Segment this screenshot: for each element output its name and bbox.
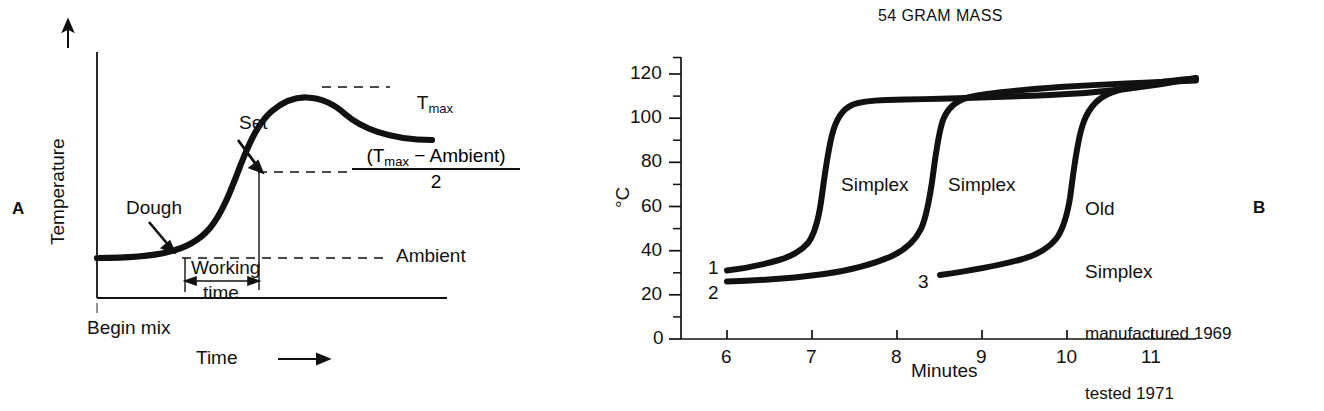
panel-b-y-minor-ticks: [673, 58, 681, 317]
panel-a-ambient-label: Ambient: [396, 246, 466, 266]
panel-a-set-label: Set: [239, 113, 268, 133]
panel-a-formula-open-paren: (T: [366, 145, 384, 166]
panel-a-working-time-line2: time: [203, 283, 239, 303]
panel-a-formula-subscript: max: [384, 154, 409, 169]
panel-a-dough-arrow: [149, 222, 174, 252]
panel-b-ytick-40: 40: [641, 240, 662, 260]
panel-b-xtick-7: 7: [806, 347, 817, 367]
panel-b-simplex-label-2: Simplex: [948, 175, 1016, 195]
panel-b-letter: B: [1253, 199, 1265, 217]
panel-a-formula-rest: − Ambient): [409, 145, 506, 166]
panel-b-ytick-60: 60: [641, 196, 662, 216]
panel-a-formula: (Tmax − Ambient) 2: [352, 145, 520, 193]
panel-b-series-label-2: 2: [708, 283, 719, 303]
panel-a-tmax-label: Tmax: [396, 73, 453, 133]
panel-a-time-arrow: [278, 354, 329, 364]
panel-b-ytick-100: 100: [630, 107, 662, 127]
panel-a-tmax-subscript: max: [428, 101, 453, 116]
panel-b-xtick-6: 6: [721, 347, 732, 367]
panel-b-xtick-9: 9: [976, 347, 987, 367]
panel-b-series-label-3: 3: [918, 272, 929, 292]
panel-a-formula-numerator: (Tmax − Ambient): [352, 145, 520, 168]
panel-b-ytick-20: 20: [641, 284, 662, 304]
panel-b-xtick-10: 10: [1056, 347, 1077, 367]
panel-b-x-axis-label: Minutes: [911, 361, 978, 381]
panel-a-y-axis-label: Temperature: [48, 138, 68, 245]
panel-b-simplex-label-1: Simplex: [841, 175, 909, 195]
panel-b-y-axis-label: °C: [613, 187, 633, 208]
panel-a-y-axis-arrow: [63, 20, 73, 48]
panel-b-xtick-8: 8: [891, 347, 902, 367]
panel-a-letter: A: [12, 200, 24, 218]
panel-b-title: 54 GRAM MASS: [878, 8, 1003, 25]
panel-b-ytick-0: 0: [653, 328, 664, 348]
panel-a-formula-denominator: 2: [352, 170, 520, 193]
panel-a-dough-label: Dough: [126, 198, 182, 218]
panel-b-series-label-1: 1: [708, 258, 719, 278]
panel-b-ytick-80: 80: [641, 151, 662, 171]
panel-a-working-time-line1: Working: [191, 258, 260, 278]
panel-b-ytick-120: 120: [630, 63, 662, 83]
panel-b-old-line-1: Old: [1085, 199, 1232, 219]
panel-a-tmax-base: T: [417, 92, 429, 113]
panel-b-old-simplex-block: Old Simplex manufactured 1969 tested 197…: [1085, 159, 1232, 411]
figure-container: A Temperature Time Begin mix Dough Set T…: [0, 0, 1324, 411]
panel-b-old-line-3: manufactured 1969: [1085, 325, 1232, 343]
panel-b-old-line-4: tested 1971: [1085, 385, 1232, 403]
panel-b-y-major-ticks: [669, 74, 681, 339]
panel-a-x-axis-label: Time: [196, 348, 238, 368]
panel-b-old-line-2: Simplex: [1085, 262, 1232, 282]
panel-a-origin-label: Begin mix: [87, 318, 170, 338]
